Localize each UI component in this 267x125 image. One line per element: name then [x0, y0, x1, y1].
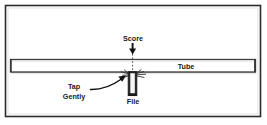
- file-tool-bottom-cap: [128, 93, 136, 95]
- tube-label: Tube: [178, 62, 195, 71]
- file-label: File: [127, 97, 139, 106]
- file-tool-group: [128, 71, 137, 95]
- file-tool-left-edge: [128, 72, 130, 96]
- figure-container: Score Tube: [0, 0, 267, 125]
- tap-gently-label-line2: Gently: [63, 92, 85, 101]
- file-tool-tip: [128, 71, 136, 73]
- file-tool-center-highlight: [131, 73, 134, 95]
- scratch-mark-right-2: [137, 74, 146, 75]
- score-label: Score: [123, 34, 143, 43]
- file-tool-right-edge: [135, 72, 137, 96]
- tap-gently-label-line1: Tap: [68, 82, 81, 91]
- tube-group: [11, 60, 257, 74]
